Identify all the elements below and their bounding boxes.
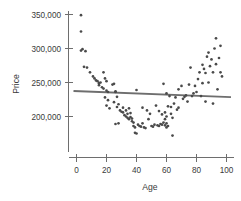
data-point (204, 72, 207, 75)
data-point (215, 37, 218, 40)
data-point (80, 30, 83, 33)
data-point (198, 71, 201, 74)
data-point (158, 110, 161, 113)
data-point (215, 63, 218, 66)
data-point (174, 96, 177, 99)
data-point (170, 112, 173, 115)
data-point (149, 112, 152, 115)
data-point (122, 106, 125, 109)
data-point (173, 102, 176, 105)
data-point (128, 107, 131, 110)
x-tick-label-60: 60 (162, 166, 172, 175)
data-point (155, 104, 158, 107)
data-point (116, 106, 119, 109)
data-point (170, 106, 173, 109)
data-point (113, 101, 116, 104)
data-point (177, 106, 180, 109)
data-point (186, 100, 189, 103)
data-point (192, 92, 195, 95)
data-point (219, 71, 222, 74)
x-tick-label-20: 20 (102, 166, 112, 175)
x-tick-label-80: 80 (192, 166, 202, 175)
data-point (89, 71, 92, 74)
data-point (140, 125, 143, 128)
data-point (104, 96, 107, 99)
data-point (165, 122, 168, 125)
data-point (114, 123, 117, 126)
x-axis-title: Age (142, 182, 158, 192)
data-point (144, 127, 147, 130)
y-tick-label-200000: 200,000 (31, 113, 61, 122)
data-point (203, 68, 206, 71)
data-point (117, 103, 120, 106)
data-point (177, 88, 180, 91)
data-point (162, 121, 165, 124)
data-point (171, 117, 174, 120)
data-point (162, 83, 165, 86)
data-point (161, 113, 164, 116)
data-point (153, 123, 156, 126)
chart-canvas: 350,000 300,000 250,000 200,000 0 20 40 … (0, 0, 241, 201)
data-point (147, 118, 150, 121)
data-point (221, 75, 224, 78)
data-point (189, 66, 192, 69)
data-point (216, 88, 219, 91)
data-point (218, 57, 221, 60)
data-point (195, 91, 198, 94)
data-point (200, 95, 203, 98)
data-point (105, 80, 108, 83)
data-point (213, 47, 216, 50)
data-point (108, 107, 111, 110)
data-point (191, 95, 194, 98)
data-point (131, 117, 134, 120)
data-point (219, 44, 222, 47)
data-point (165, 92, 168, 95)
data-point (167, 125, 170, 128)
regression-line (74, 91, 232, 97)
data-point (129, 112, 132, 115)
data-point (135, 89, 138, 92)
data-point (117, 122, 120, 125)
data-point (125, 109, 128, 112)
data-point (167, 105, 170, 108)
y-tick-label-350000: 350,000 (31, 11, 61, 20)
data-point (164, 111, 167, 114)
x-tick-label-100: 100 (220, 166, 234, 175)
data-point (105, 104, 108, 107)
data-point (207, 81, 210, 84)
data-point (81, 48, 84, 51)
data-point (164, 118, 167, 121)
data-point (171, 134, 174, 137)
data-point (83, 66, 86, 69)
scatter-plot-figure: 350,000 300,000 250,000 200,000 0 20 40 … (0, 0, 241, 201)
data-point (194, 85, 197, 88)
data-point (141, 106, 144, 109)
data-point (180, 85, 183, 88)
data-point (168, 95, 171, 98)
data-point (212, 102, 215, 105)
x-tick-label-0: 0 (74, 166, 79, 175)
data-point (207, 51, 210, 54)
data-point (104, 77, 107, 80)
data-point (99, 81, 102, 84)
y-tick-label-300000: 300,000 (31, 45, 61, 54)
data-point (188, 83, 191, 86)
data-point (116, 95, 119, 98)
data-point (114, 91, 117, 94)
regression-line-group (74, 91, 232, 97)
data-point (185, 94, 188, 97)
x-tick-label-40: 40 (132, 166, 142, 175)
data-point (98, 84, 101, 87)
data-point (135, 132, 138, 135)
scatter-points-group (80, 14, 224, 137)
data-point (107, 99, 110, 102)
data-point (201, 63, 204, 66)
data-point (107, 91, 110, 94)
y-axis-title: Price (11, 74, 21, 94)
data-point (86, 66, 89, 69)
data-point (204, 100, 207, 103)
data-point (209, 65, 212, 68)
data-point (212, 71, 215, 74)
data-point (80, 14, 83, 17)
data-point (146, 109, 149, 112)
